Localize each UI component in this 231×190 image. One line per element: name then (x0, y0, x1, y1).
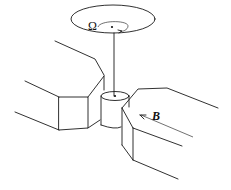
magnetic-field-label: B (152, 110, 160, 122)
rotating-disk (71, 5, 155, 33)
rotation-label: Ω (88, 20, 97, 32)
disk-center-dot (111, 26, 113, 28)
sample-cylinder (101, 92, 129, 129)
rod-attach-dot (114, 95, 116, 97)
left-pole-piece (15, 41, 104, 130)
diagram-canvas (0, 0, 231, 190)
right-pole-piece (122, 88, 218, 179)
rotation-arrow-icon (98, 22, 128, 32)
